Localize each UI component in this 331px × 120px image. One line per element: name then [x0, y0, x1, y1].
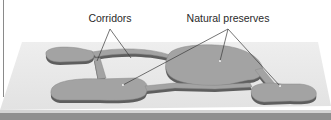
corridors-label: Corridors: [88, 12, 131, 24]
preserve-lower-left: [51, 78, 148, 100]
preserve-lower-right: [251, 83, 316, 102]
habitat-corridor-diagram: [0, 0, 331, 120]
natural-preserves-label: Natural preserves: [187, 12, 270, 24]
